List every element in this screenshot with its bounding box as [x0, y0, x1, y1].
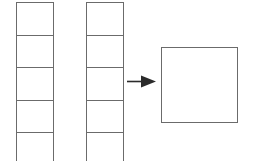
column-left-cell	[17, 3, 53, 36]
column-left	[16, 2, 54, 161]
column-left-cell	[17, 36, 53, 69]
column-right-cell	[87, 36, 123, 69]
column-right-cell	[87, 101, 123, 134]
column-right-cell	[87, 68, 123, 101]
column-left-cell	[17, 101, 53, 134]
arrow-right-icon	[127, 75, 156, 88]
column-right-cell	[87, 133, 123, 161]
column-left-cell	[17, 68, 53, 101]
column-right-cell	[87, 3, 123, 36]
result-square	[161, 47, 238, 123]
diagram-canvas	[0, 0, 257, 161]
column-left-cell	[17, 133, 53, 161]
column-right	[86, 2, 124, 161]
